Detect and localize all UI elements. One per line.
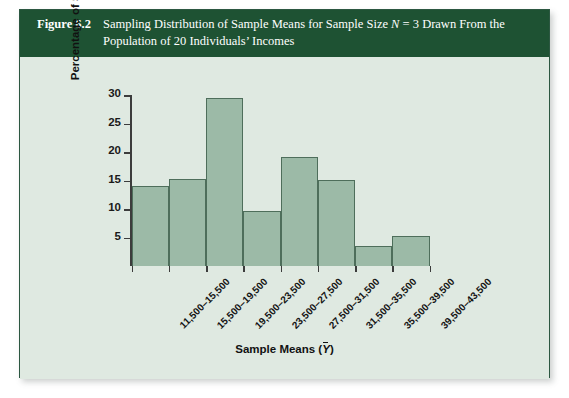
y-axis-tick-label: 20 bbox=[108, 144, 121, 156]
bar bbox=[318, 180, 355, 266]
x-axis-tick-labels: 11,500–15,50015,500–19,50019,500–23,5002… bbox=[132, 274, 430, 354]
y-axis-title: Percentage of Samples bbox=[69, 0, 81, 92]
y-axis-tick-mark bbox=[124, 124, 130, 126]
x-axis-tick-mark bbox=[169, 266, 171, 272]
x-axis-tick-mark bbox=[355, 266, 357, 272]
y-axis-tick-label: 5 bbox=[115, 230, 121, 242]
bar-series bbox=[132, 95, 430, 266]
figure-title-line1-post: = 3 Drawn From the bbox=[399, 17, 504, 31]
figure-title: Sampling Distribution of Sample Means fo… bbox=[103, 16, 535, 49]
plot-area: 51015202530 11,500–15,50015,500–19,50019… bbox=[130, 87, 430, 274]
bar bbox=[169, 179, 206, 266]
y-axis-tick-mark bbox=[124, 95, 130, 97]
y-axis-tick-mark bbox=[124, 238, 130, 240]
y-axis-tick-mark bbox=[124, 209, 130, 211]
y-axis-tick-mark bbox=[124, 152, 130, 154]
y-axis-tick-label: 10 bbox=[108, 201, 121, 213]
x-axis-tick-mark bbox=[281, 266, 283, 272]
x-axis-tick-mark bbox=[392, 266, 394, 272]
figure-title-line2: Population of 20 Individuals’ Incomes bbox=[103, 34, 294, 48]
x-axis-tick-mark bbox=[132, 266, 134, 272]
bar bbox=[281, 157, 318, 266]
x-axis-title: Sample Means (Y) bbox=[20, 343, 549, 355]
bar bbox=[206, 98, 243, 266]
x-axis-tick-mark bbox=[318, 266, 320, 272]
figure-title-line1-pre: Sampling Distribution of Sample Means fo… bbox=[103, 17, 391, 31]
bar bbox=[243, 211, 280, 266]
bar bbox=[132, 186, 169, 266]
y-bar-symbol: Y bbox=[322, 343, 330, 355]
x-axis-tick-mark bbox=[243, 266, 245, 272]
chart-panel: Percentage of Samples 51015202530 11,500… bbox=[20, 57, 549, 379]
x-axis-tick-mark bbox=[430, 266, 432, 272]
y-axis-tick-label: 25 bbox=[108, 116, 121, 128]
x-axis-tick-mark bbox=[206, 266, 208, 272]
figure-container: Figure 6.2 Sampling Distribution of Samp… bbox=[19, 9, 550, 378]
y-axis-tick-mark bbox=[124, 181, 130, 183]
figure-header: Figure 6.2 Sampling Distribution of Samp… bbox=[20, 10, 549, 57]
x-axis-title-close: ) bbox=[330, 343, 334, 355]
bar bbox=[355, 246, 392, 266]
x-axis-title-text: Sample Means ( bbox=[235, 343, 322, 355]
bar bbox=[392, 236, 429, 266]
y-axis-tick-label: 30 bbox=[108, 87, 121, 99]
y-axis-tick-label: 15 bbox=[108, 173, 121, 185]
